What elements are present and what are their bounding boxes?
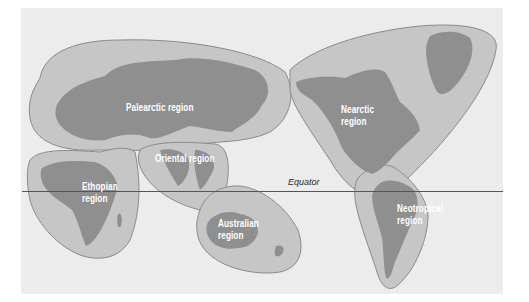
label-australian-region: Australian region [218,218,259,242]
label-palearctic-region: Palearctic region [126,102,193,114]
world-map [0,0,529,302]
equator-label: Equator [288,177,320,187]
label-ethiopian-region: Ethopian region [82,181,118,205]
label-neotropical-region: Neotropical region [397,203,443,227]
label-oriental-region: Oriental region [155,153,215,165]
label-nearctic-region: Nearctic region [341,104,374,128]
landmass-madagascar [117,214,122,228]
